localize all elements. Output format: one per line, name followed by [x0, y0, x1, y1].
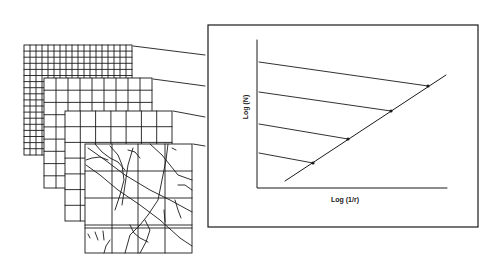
- x-axis-label: Log (1/r): [331, 196, 359, 204]
- data-point: [389, 109, 392, 112]
- grid-crack-pattern: [85, 144, 192, 253]
- data-point: [426, 84, 429, 87]
- plot-axes: [257, 40, 447, 188]
- y-axis-label: Log (N): [242, 95, 250, 120]
- box-counting-diagram: Log (1/r) Log (N): [0, 0, 495, 259]
- grid-to-point-lines: [259, 62, 428, 163]
- fit-line: [285, 75, 446, 181]
- data-point: [346, 137, 349, 140]
- data-point: [311, 161, 314, 164]
